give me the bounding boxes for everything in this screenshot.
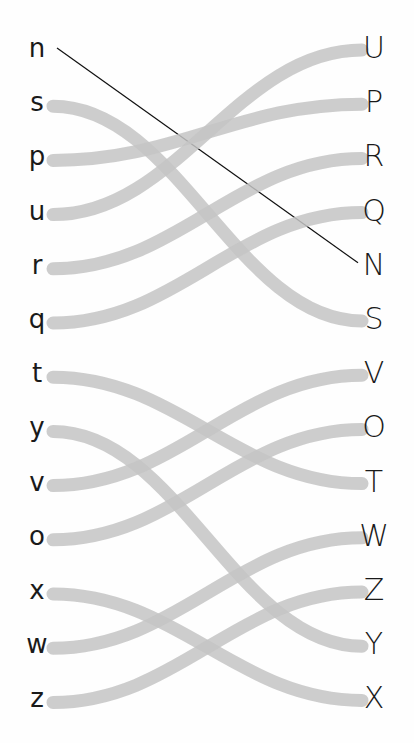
lowercase-letter-y: y [29, 414, 44, 440]
uppercase-letter-T: T [365, 467, 383, 497]
lowercase-letter-z: z [30, 685, 44, 711]
uppercase-letter-S: S [364, 304, 383, 334]
uppercase-letter-Z: Z [364, 575, 385, 605]
lowercase-letter-u: u [29, 198, 45, 224]
lowercase-letter-o: o [29, 523, 45, 549]
lowercase-letter-w: w [26, 631, 47, 657]
lowercase-letter-r: r [32, 252, 43, 278]
lowercase-letter-q: q [29, 306, 46, 332]
uppercase-letter-V: V [364, 358, 385, 388]
uppercase-letter-U: U [363, 33, 385, 63]
lowercase-letter-x: x [29, 577, 44, 603]
uppercase-letter-Q: Q [362, 196, 386, 226]
uppercase-letter-R: R [364, 141, 385, 171]
uppercase-letter-W: W [359, 521, 389, 551]
connection-lines [0, 0, 414, 743]
lowercase-letter-n: n [29, 35, 45, 61]
uppercase-letter-Y: Y [365, 629, 383, 659]
uppercase-letter-O: O [362, 412, 386, 442]
lowercase-letter-v: v [29, 469, 44, 495]
lowercase-letter-s: s [30, 89, 44, 115]
lowercase-letter-p: p [29, 143, 46, 169]
lowercase-letter-t: t [32, 360, 42, 386]
uppercase-letter-P: P [365, 87, 383, 117]
matching-worksheet: nspurqtyvoxwz UPRQNSVOTWZYX [0, 0, 414, 743]
uppercase-letter-N: N [363, 250, 385, 280]
uppercase-letter-X: X [364, 683, 385, 713]
connection-u-U [53, 50, 362, 215]
